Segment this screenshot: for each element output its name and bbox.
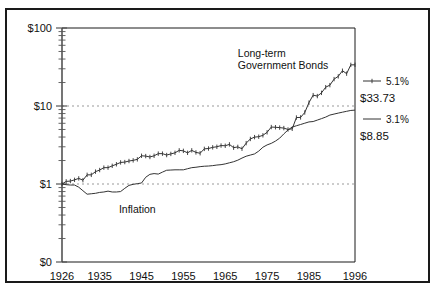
x-tick-label-2: 1945 bbox=[129, 270, 153, 282]
chart-figure: $100$10$1$019261935194519551965197519851… bbox=[0, 0, 438, 292]
x-tick-label-4: 1965 bbox=[213, 270, 237, 282]
growth-of-one-dollar-chart: $100$10$1$019261935194519551965197519851… bbox=[0, 0, 438, 292]
x-tick-label-3: 1955 bbox=[171, 270, 195, 282]
legend-percent-0: 5.1% bbox=[386, 76, 409, 87]
y-tick-label-2: $1 bbox=[40, 178, 52, 190]
legend-amount-0: $33.73 bbox=[360, 92, 395, 104]
y-tick-label-0: $100 bbox=[28, 22, 52, 34]
legend-swatch-0 bbox=[363, 79, 381, 83]
annotation-2: Inflation bbox=[119, 203, 156, 215]
y-tick-label-1: $10 bbox=[34, 100, 52, 112]
x-tick-label-0: 1926 bbox=[50, 270, 74, 282]
annotation-1: Government Bonds bbox=[238, 59, 328, 71]
x-tick-label-6: 1985 bbox=[297, 270, 321, 282]
annotation-0: Long-term bbox=[238, 47, 286, 59]
x-tick-label-1: 1935 bbox=[87, 270, 111, 282]
legend-percent-1: 3.1% bbox=[386, 114, 409, 125]
series-line-inflation bbox=[62, 110, 355, 194]
legend-amount-1: $8.85 bbox=[360, 130, 389, 142]
x-tick-label-5: 1975 bbox=[255, 270, 279, 282]
x-tick-label-7: 1996 bbox=[343, 270, 367, 282]
y-tick-label-3: $0 bbox=[40, 256, 52, 268]
